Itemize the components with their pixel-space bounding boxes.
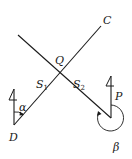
line-to-p (18, 35, 111, 118)
point-label-d: D (8, 131, 18, 144)
segment-label-s1: S1 (36, 78, 48, 92)
point-label-c: C (103, 14, 112, 27)
angle-label-beta: β (112, 141, 119, 154)
line-d-to-c (14, 26, 101, 125)
point-label-q: Q (55, 54, 64, 67)
bearing-diagram: C Q D P S1 S2 α β (0, 0, 132, 159)
segment-label-s2: S2 (73, 78, 85, 92)
point-label-p: P (114, 90, 123, 103)
north-arrow-at-p-icon (106, 76, 114, 118)
angle-label-alpha: α (19, 101, 27, 114)
north-arrow-at-d-icon (9, 89, 17, 125)
